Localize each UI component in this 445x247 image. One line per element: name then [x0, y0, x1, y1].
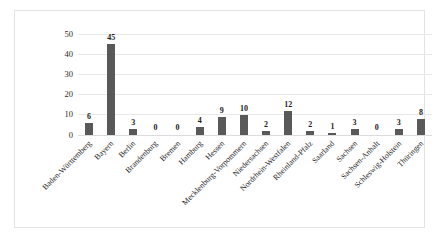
bar-group: 0: [167, 34, 189, 135]
bar-value-label: 1: [320, 123, 344, 131]
bar-value-label: 2: [254, 121, 278, 129]
bar: [218, 117, 226, 135]
bar-group: 2: [255, 34, 277, 135]
y-axis-tick-label: 30: [47, 70, 73, 79]
bar-group: 8: [410, 34, 432, 135]
bar-value-label: 3: [387, 119, 411, 127]
bar-value-label: 2: [298, 121, 322, 129]
bar-group: 3: [388, 34, 410, 135]
chart-frame: 01020304050 6453004910212213038 Baden-Wü…: [14, 10, 425, 228]
bar-value-label: 3: [343, 119, 367, 127]
x-axis-tick: Hessen: [211, 135, 233, 136]
bar-value-label: 10: [232, 105, 256, 113]
bar-group: 9: [211, 34, 233, 135]
bar-value-label: 0: [166, 124, 190, 132]
bar-value-label: 0: [143, 124, 167, 132]
x-axis-tick: Hamburg: [189, 135, 211, 136]
bar-group: 10: [233, 34, 255, 135]
bar: [85, 123, 93, 135]
x-axis-tick: Niedersachsen: [255, 135, 277, 136]
bar-group: 3: [122, 34, 144, 135]
bar-value-label: 8: [409, 109, 433, 117]
x-axis-tick: Bremen: [167, 135, 189, 136]
y-axis-tick-label: 40: [47, 50, 73, 59]
bar-value-label: 0: [365, 124, 389, 132]
x-axis-tick: Saarland: [321, 135, 343, 136]
y-axis-tick-label: 20: [47, 90, 73, 99]
bar-value-label: 6: [77, 113, 101, 121]
bar: [107, 44, 115, 135]
bar-chart-figure: 01020304050 6453004910212213038 Baden-Wü…: [0, 0, 445, 247]
x-axis-tick: Brandenburg: [144, 135, 166, 136]
y-axis-tick-label: 50: [47, 30, 73, 39]
x-axis-tick: Rheinland-Pfalz: [299, 135, 321, 136]
x-axis-tick-label-text: Baden-Württemberg: [41, 139, 94, 192]
x-axis-tick-label-text: Bayern: [93, 139, 116, 162]
bar-value-label: 45: [99, 34, 123, 42]
x-axis-tick: Berlin: [122, 135, 144, 136]
bar: [240, 115, 248, 135]
bar-group: 0: [144, 34, 166, 135]
x-axis-tick: Sachsen: [344, 135, 366, 136]
y-axis-tick-label: 10: [47, 110, 73, 119]
bar-group: 6: [78, 34, 100, 135]
bar-value-label: 4: [188, 117, 212, 125]
bar-value-label: 9: [210, 107, 234, 115]
bar: [284, 111, 292, 135]
bar-value-label: 12: [276, 101, 300, 109]
x-axis-tick-label-text: Saarland: [311, 139, 337, 165]
bar-group: 12: [277, 34, 299, 135]
y-axis-tick-label: 0: [47, 131, 73, 140]
x-axis-tick: Thüringen: [410, 135, 432, 136]
bar: [196, 127, 204, 135]
x-axis-tick: Schleswig-Holstein: [388, 135, 410, 136]
bar-group: 0: [366, 34, 388, 135]
bar-group: 4: [189, 34, 211, 135]
x-axis-tick: Sachsen-Anhalt: [366, 135, 388, 136]
x-axis: Baden-WürttembergBayernBerlinBrandenburg…: [78, 135, 432, 235]
bar-group: 45: [100, 34, 122, 135]
x-axis-tick: Bayern: [100, 135, 122, 136]
x-axis-tick: Mecklenburg-Vorpommern: [233, 135, 255, 136]
plot-area: 6453004910212213038: [78, 34, 432, 135]
bar: [417, 119, 425, 135]
bar-group: 1: [321, 34, 343, 135]
x-axis-tick: Baden-Württemberg: [78, 135, 100, 136]
bar-group: 3: [344, 34, 366, 135]
y-axis: 01020304050: [45, 34, 73, 135]
bar-value-label: 3: [121, 119, 145, 127]
x-axis-tick: Nordrhein-Westfalen: [277, 135, 299, 136]
bar-group: 2: [299, 34, 321, 135]
